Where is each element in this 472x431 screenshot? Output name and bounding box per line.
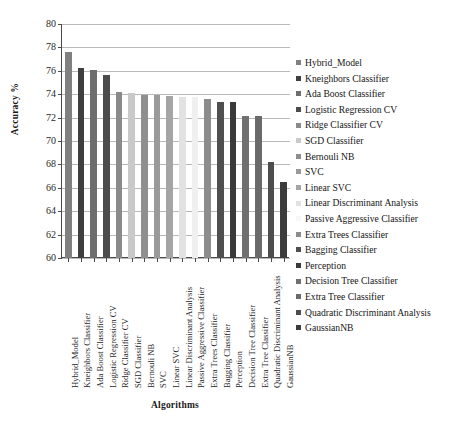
legend-item-label: SVC bbox=[305, 167, 324, 177]
legend-item-label: Decision Tree Classifier bbox=[305, 276, 398, 286]
legend-item-label: Extra Tree Classifier bbox=[305, 292, 384, 302]
legend-item[interactable]: Bagging Classifier bbox=[296, 242, 472, 258]
legend-swatch-icon bbox=[296, 154, 301, 159]
legend-swatch-icon bbox=[296, 263, 301, 268]
x-axis-category-label: Hybrid_Model bbox=[71, 337, 80, 388]
legend-item[interactable]: Quadratic Discriminant Analysis bbox=[296, 305, 472, 321]
x-axis-category-label: Ridge Classifier CV bbox=[121, 318, 130, 388]
x-axis-category-label: Extra Trees Classifier bbox=[210, 314, 219, 388]
bar bbox=[128, 93, 134, 258]
legend-item[interactable]: Linear SVC bbox=[296, 180, 472, 196]
x-axis-category-label: Linear SVC bbox=[172, 347, 181, 388]
bar bbox=[166, 96, 172, 258]
legend-item-label: SGD Classifier bbox=[305, 136, 363, 146]
x-axis-category-label: Decision Tree Classifier bbox=[248, 305, 257, 388]
y-axis-tick-mark bbox=[58, 258, 62, 259]
y-axis-tick-label: 70 bbox=[46, 136, 56, 146]
bar bbox=[103, 75, 109, 258]
legend-swatch-icon bbox=[296, 91, 301, 96]
legend-item-label: Extra Trees Classifier bbox=[305, 230, 388, 240]
legend-swatch-icon bbox=[296, 185, 301, 190]
y-axis-tick-label: 68 bbox=[46, 159, 56, 169]
bar bbox=[217, 102, 223, 258]
x-axis-category-label: Extra Tree Classifier bbox=[261, 317, 270, 388]
bar bbox=[154, 95, 160, 258]
bar bbox=[280, 182, 286, 258]
x-axis-title: Algorithms bbox=[61, 400, 289, 410]
legend-swatch-icon bbox=[296, 60, 301, 65]
legend-swatch-icon bbox=[296, 138, 301, 143]
legend-item-label: Ridge Classifier CV bbox=[305, 120, 383, 130]
x-axis-category-label: SVC bbox=[159, 371, 168, 388]
legend-item-label: Passive Aggressive Classifier bbox=[305, 214, 418, 224]
legend-swatch-icon bbox=[296, 232, 301, 237]
legend-item[interactable]: Ridge Classifier CV bbox=[296, 117, 472, 133]
y-axis-tick-label: 76 bbox=[46, 66, 56, 76]
x-axis-category-label: GaussianNB bbox=[286, 345, 295, 388]
legend-item-label: Logistic Regression CV bbox=[305, 105, 397, 115]
legend-item[interactable]: Extra Trees Classifier bbox=[296, 227, 472, 243]
legend-item-label: Bernouli NB bbox=[305, 152, 354, 162]
legend-item[interactable]: Extra Tree Classifier bbox=[296, 289, 472, 305]
legend-swatch-icon bbox=[296, 201, 301, 206]
bar bbox=[179, 97, 185, 258]
x-axis-category-label: Passive Aggressive Classifier bbox=[197, 287, 206, 388]
x-axis-category-label: Linear Discriminant Analysis bbox=[185, 287, 194, 388]
bar bbox=[141, 95, 147, 258]
bar bbox=[255, 116, 261, 258]
legend-swatch-icon bbox=[296, 294, 301, 299]
legend-item-label: Linear SVC bbox=[305, 183, 351, 193]
legend-item[interactable]: Logistic Regression CV bbox=[296, 102, 472, 118]
y-axis-tick-label: 80 bbox=[46, 19, 56, 29]
x-axis-category-label: Logistic Regression CV bbox=[109, 305, 118, 388]
legend-item-label: Quadratic Discriminant Analysis bbox=[305, 308, 431, 318]
bar bbox=[204, 99, 210, 258]
x-axis-category-label: Quadratic Discriminant Analysis bbox=[273, 275, 282, 388]
legend-item[interactable]: GaussianNB bbox=[296, 320, 472, 336]
legend-swatch-icon bbox=[296, 247, 301, 252]
legend-item[interactable]: SGD Classifier bbox=[296, 133, 472, 149]
y-axis-tick-label: 64 bbox=[46, 206, 56, 216]
y-axis-title: Accuracy % bbox=[10, 54, 20, 164]
legend-item-label: Ada Boost Classifier bbox=[305, 89, 385, 99]
legend-swatch-icon bbox=[296, 216, 301, 221]
legend-swatch-icon bbox=[296, 279, 301, 284]
y-axis-tick-label: 72 bbox=[46, 113, 56, 123]
plot-area: 8078767472706866646260 bbox=[61, 24, 289, 258]
legend-item-label: Hybrid_Model bbox=[305, 58, 362, 68]
legend-swatch-icon bbox=[296, 76, 301, 81]
x-axis-category-label: Ada Boost Classifier bbox=[96, 316, 105, 388]
bar bbox=[242, 116, 248, 258]
x-axis-category-label: Bernouli NB bbox=[147, 344, 156, 388]
legend-swatch-icon bbox=[296, 107, 301, 112]
legend-item-label: GaussianNB bbox=[305, 323, 354, 333]
legend-item-label: Kneighbors Classifier bbox=[305, 74, 389, 84]
y-axis-tick-label: 66 bbox=[46, 183, 56, 193]
legend-item[interactable]: Kneighbors Classifier bbox=[296, 71, 472, 87]
x-axis-category-label: Kneighbors Classifier bbox=[83, 313, 92, 388]
legend-item[interactable]: Passive Aggressive Classifier bbox=[296, 211, 472, 227]
legend-item-label: Perception bbox=[305, 261, 346, 271]
y-axis-tick-label: 78 bbox=[46, 42, 56, 52]
x-axis-category-label: SGD Classifier bbox=[134, 336, 143, 388]
legend-item-label: Bagging Classifier bbox=[305, 245, 377, 255]
legend-swatch-icon bbox=[296, 310, 301, 315]
legend-item[interactable]: Ada Boost Classifier bbox=[296, 86, 472, 102]
bars-layer bbox=[62, 24, 290, 258]
x-axis-category-label: Bagging Classifier bbox=[223, 324, 232, 388]
gridline bbox=[62, 258, 290, 259]
legend-item[interactable]: Bernouli NB bbox=[296, 149, 472, 165]
legend-swatch-icon bbox=[296, 123, 301, 128]
bar bbox=[230, 102, 236, 258]
legend-item[interactable]: Perception bbox=[296, 258, 472, 274]
bar bbox=[90, 70, 96, 258]
accuracy-bar-chart: Accuracy % 8078767472706866646260 Hybrid… bbox=[0, 0, 472, 431]
legend-item[interactable]: SVC bbox=[296, 164, 472, 180]
bar bbox=[268, 162, 274, 258]
legend-item[interactable]: Hybrid_Model bbox=[296, 55, 472, 71]
y-axis-tick-label: 60 bbox=[46, 253, 56, 263]
x-axis-category-labels: Hybrid_ModelKneighbors ClassifierAda Boo… bbox=[61, 262, 289, 392]
legend-item[interactable]: Linear Discriminant Analysis bbox=[296, 195, 472, 211]
bar bbox=[65, 52, 71, 258]
legend-item[interactable]: Decision Tree Classifier bbox=[296, 273, 472, 289]
